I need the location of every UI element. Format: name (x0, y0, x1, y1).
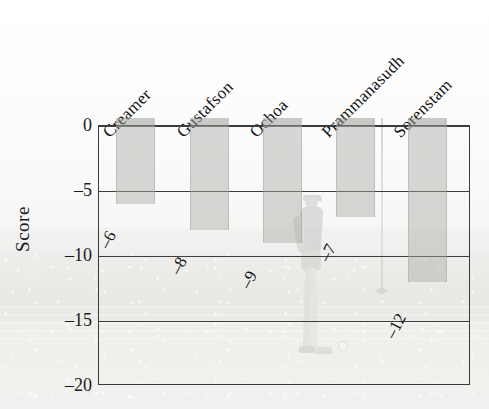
plot-area (98, 125, 470, 385)
chart-figure: Score 0 –5 –10 –15 –20 Creamer Gustafson… (0, 0, 489, 409)
y-tick-label: –10 (46, 245, 92, 266)
y-tick-label: 0 (46, 115, 92, 136)
bar-cap (263, 118, 302, 127)
gridline-15 (99, 321, 469, 322)
bar-cap (116, 118, 155, 127)
bar-creamer[interactable] (116, 126, 155, 204)
y-tick-label: –5 (46, 180, 92, 201)
bar-sorenstam[interactable] (408, 126, 447, 282)
y-axis-ticks: 0 –5 –10 –15 –20 (40, 125, 92, 385)
bar-gustafson[interactable] (190, 126, 229, 230)
bar-prammanasudh[interactable] (336, 126, 375, 217)
bar-cap (190, 118, 229, 127)
y-tick-label: –15 (46, 310, 92, 331)
y-tick-label: –20 (46, 375, 92, 396)
y-axis-title: Score (12, 174, 34, 284)
bar-ochoa[interactable] (263, 126, 302, 243)
bar-cap (408, 118, 447, 127)
bar-cap (336, 118, 375, 127)
